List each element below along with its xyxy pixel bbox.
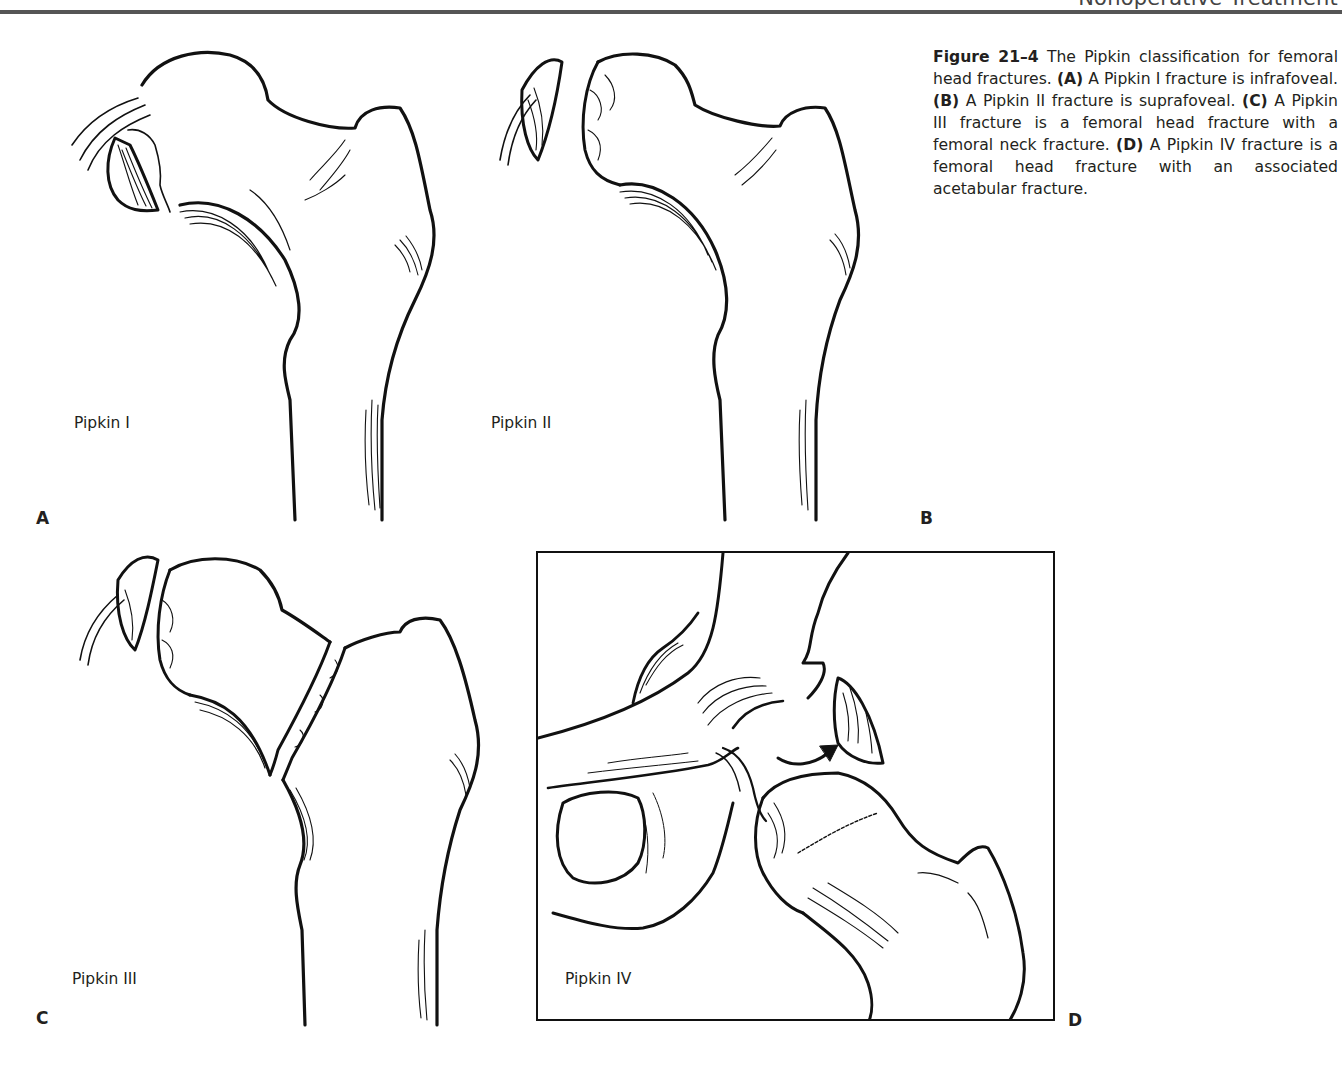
femur-pipkin-3-illustration (0, 540, 520, 1030)
panel-c: Pipkin III C (0, 540, 520, 1030)
panel-label-b: Pipkin II (491, 414, 551, 432)
panel-letter-c: C (36, 1008, 48, 1028)
figure-caption: Figure 21–4 The Pipkin classification fo… (933, 46, 1338, 200)
caption-tag-a: (A) (1057, 70, 1083, 88)
panel-letter-b: B (920, 508, 933, 528)
femur-pipkin-1-illustration (0, 0, 480, 530)
panel-label-d: Pipkin IV (565, 970, 631, 988)
panel-label-a: Pipkin I (74, 414, 130, 432)
running-head: Nonoperative Treatment (1078, 0, 1338, 10)
panel-letter-d: D (1068, 1010, 1082, 1030)
panel-b: Pipkin II B (480, 0, 940, 530)
panel-label-c: Pipkin III (72, 970, 137, 988)
panel-letter-a: A (36, 508, 49, 528)
panel-d-frame (536, 551, 1055, 1021)
figure-number: Figure 21–4 (933, 48, 1039, 66)
femur-pipkin-2-illustration (480, 0, 940, 530)
caption-text-a: A Pipkin I fracture is infrafoveal. (1083, 70, 1338, 88)
caption-tag-d: (D) (1116, 136, 1143, 154)
panel-a: Pipkin I A (0, 0, 480, 530)
caption-text-b: A Pipkin II fracture is suprafoveal. (959, 92, 1242, 110)
hip-joint-pipkin-4-illustration (538, 553, 1055, 1021)
caption-tag-c: (C) (1242, 92, 1268, 110)
